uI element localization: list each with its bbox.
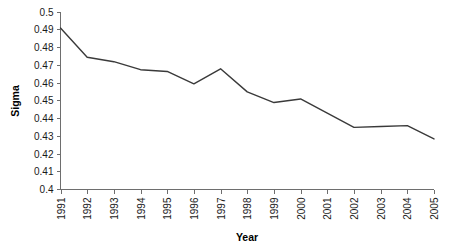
x-tick-label: 1992: [82, 197, 93, 220]
line-chart: 0.50.490.480.470.460.450.440.430.420.410…: [0, 0, 461, 248]
x-tick-label: 1994: [136, 197, 147, 220]
x-tick-label: 1998: [242, 197, 253, 220]
x-tick-label: 2001: [322, 197, 333, 220]
y-tick-label: 0.48: [34, 42, 54, 53]
x-tick-label: 2000: [296, 197, 307, 220]
y-tick-label: 0.43: [34, 131, 54, 142]
data-series-line: [61, 28, 435, 139]
x-tick-label: 2003: [376, 197, 387, 220]
x-tick-label: 2005: [429, 197, 440, 220]
y-tick-label: 0.4: [40, 184, 54, 195]
y-tick-label: 0.45: [34, 95, 54, 106]
y-axis-ticks: 0.50.490.480.470.460.450.440.430.420.410…: [34, 7, 60, 196]
x-axis-ticks: 1991199219931994199519961997199819992000…: [56, 190, 440, 220]
x-tick-label: 1996: [189, 197, 200, 220]
y-tick-label: 0.46: [34, 78, 54, 89]
x-tick-label: 1997: [216, 197, 227, 220]
y-tick-label: 0.41: [34, 166, 54, 177]
y-tick-label: 0.5: [40, 7, 54, 18]
y-tick-label: 0.42: [34, 149, 54, 160]
y-tick-label: 0.47: [34, 60, 54, 71]
x-tick-label: 1991: [56, 197, 67, 220]
x-axis-title: Year: [236, 231, 258, 243]
y-tick-label: 0.44: [34, 113, 54, 124]
chart-page: 0.50.490.480.470.460.450.440.430.420.410…: [0, 0, 461, 248]
x-tick-label: 2004: [402, 197, 413, 220]
y-tick-label: 0.49: [34, 24, 54, 35]
y-axis-title: Sigma: [9, 85, 21, 117]
x-tick-label: 1999: [269, 197, 280, 220]
x-tick-label: 1995: [162, 197, 173, 220]
x-tick-label: 1993: [109, 197, 120, 220]
x-tick-label: 2002: [349, 197, 360, 220]
